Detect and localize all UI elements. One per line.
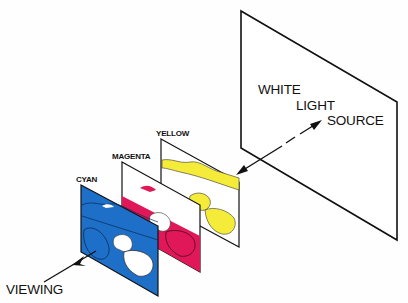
label-yellow: YELLOW bbox=[156, 129, 189, 138]
label-light: LIGHT bbox=[296, 98, 335, 113]
diagram-canvas: WHITE LIGHT SOURCE YELLOW MAGENTA CYAN V… bbox=[0, 0, 408, 303]
arrowhead-yellow-icon bbox=[236, 165, 248, 175]
label-magenta: MAGENTA bbox=[112, 152, 150, 161]
viewing-ray-line bbox=[44, 251, 96, 282]
label-white: WHITE bbox=[258, 82, 301, 97]
label-source: SOURCE bbox=[327, 113, 384, 128]
diagram-svg bbox=[0, 0, 408, 303]
label-viewing: VIEWING bbox=[6, 282, 63, 297]
label-cyan: CYAN bbox=[76, 175, 97, 184]
